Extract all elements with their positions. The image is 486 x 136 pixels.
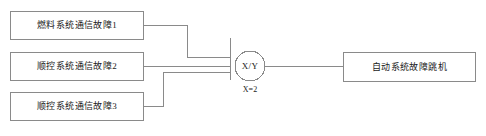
input-node-label: 燃料系统通信故障1 xyxy=(37,21,117,30)
connector-input-3 xyxy=(144,72,230,106)
output-node-label: 自动系统故障跳机 xyxy=(372,63,447,72)
voting-gate-label: X/Y xyxy=(235,62,265,71)
input-node-label: 顺控系统通信故障2 xyxy=(37,62,117,71)
input-node-fuel-system-comm-fault-1[interactable]: 燃料系统通信故障1 xyxy=(10,11,144,40)
input-node-sequence-control-comm-fault-3[interactable]: 顺控系统通信故障3 xyxy=(10,92,144,121)
output-node-auto-system-fault-trip[interactable]: 自动系统故障跳机 xyxy=(343,52,476,82)
fault-logic-diagram: 燃料系统通信故障1 顺控系统通信故障2 顺控系统通信故障3 X/Y X=2 自动… xyxy=(0,0,486,136)
voting-gate-condition-label: X=2 xyxy=(230,86,270,94)
input-node-sequence-control-comm-fault-2[interactable]: 顺控系统通信故障2 xyxy=(10,52,144,81)
input-node-label: 顺控系统通信故障3 xyxy=(37,102,117,111)
connector-input-1 xyxy=(144,25,230,57)
